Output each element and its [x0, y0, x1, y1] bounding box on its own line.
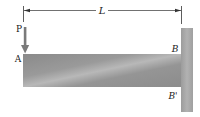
- point-B-prime-label: B': [167, 91, 177, 101]
- length-label: L: [98, 5, 106, 16]
- fixed-wall: [181, 28, 193, 112]
- arrowhead-left-icon: [24, 9, 30, 12]
- arrow-shaft: [24, 27, 27, 46]
- force-label: P: [16, 24, 22, 34]
- beam: [23, 54, 181, 87]
- point-A-label: A: [14, 54, 22, 64]
- point-B-label: B: [171, 44, 179, 54]
- arrowhead-right-icon: [175, 9, 181, 12]
- cantilever-diagram: L P A B B': [0, 0, 200, 117]
- force-arrow-P: [21, 27, 29, 54]
- arrow-down-icon: [21, 45, 29, 54]
